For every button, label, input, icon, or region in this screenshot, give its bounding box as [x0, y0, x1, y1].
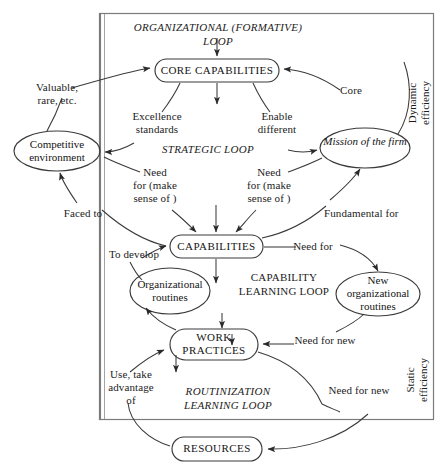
side-label-static-efficiency: Static efficiency	[404, 345, 430, 415]
diagram-canvas: CORE CAPABILITIES Competitive environmen…	[0, 0, 446, 473]
edge-enable-to-mission	[288, 150, 317, 152]
node-core-capabilities	[155, 59, 279, 82]
loop-label-capability-learning: CAPABILITY LEARNING LOOP	[228, 270, 340, 298]
edge-label-need-for-new-routines: Need for new	[288, 334, 362, 347]
edge-static-efficiency-curve	[322, 404, 340, 412]
side-label-dynamic-efficiency: Dynamic efficiency	[406, 66, 432, 140]
edge-label-need-for-new-resources: Need for new	[322, 384, 396, 397]
edge-excellence-to-competitive	[105, 143, 134, 152]
edge-label-excellence-standards: Excellence standards	[116, 110, 198, 136]
node-competitive-environment	[14, 131, 100, 171]
edge-label-faced-to: Faced to	[54, 207, 112, 220]
edge-label-core: Core	[330, 84, 372, 97]
node-new-organizational-routines	[336, 272, 420, 316]
loop-label-organizational: ORGANIZATIONAL (FORMATIVE) LOOP	[128, 20, 308, 48]
edge-label-valuable-rare: Valuable, rare, etc.	[14, 81, 100, 107]
node-resources	[172, 437, 262, 461]
edge-fundamental-curve	[262, 206, 326, 238]
edge-faced-to-competitive	[60, 173, 77, 203]
edge-fundamental-to-mission	[330, 169, 360, 200]
edge-label-need-for-make-sense-of-left: Need for (make sense of )	[124, 166, 186, 205]
edge-label-need-for: Need for	[288, 240, 338, 253]
edge-label-enable-different: Enable different	[246, 110, 308, 136]
edge-new-routines-to-need-for-new	[336, 314, 364, 332]
edge-label-need-for-make-sense-of-right: Need for (make sense of )	[238, 166, 300, 205]
node-mission-of-the-firm	[320, 128, 410, 168]
loop-label-strategic: STRATEGIC LOOP	[148, 142, 268, 156]
edge-to-develop-curve	[130, 262, 142, 280]
edge-core-to-enable	[253, 83, 270, 112]
edge-label-to-develop: To develop	[104, 248, 164, 261]
node-organizational-routines	[130, 268, 210, 314]
node-work-practices	[170, 329, 258, 360]
edge-need-left-to-capabilities	[172, 210, 196, 232]
loop-label-routinization-learning: ROUTINIZATION LEARNING LOOP	[158, 384, 298, 412]
edge-need-right-to-capabilities	[236, 210, 256, 232]
edge-label-fundamental-for: Fundamental for	[324, 207, 414, 220]
edge-need-for-to-new-routines	[340, 245, 378, 271]
edge-label-use-take-advantage-of: Use, take advantage of	[98, 368, 164, 407]
edge-core-to-excellence	[162, 83, 180, 112]
node-capabilities	[170, 235, 263, 258]
